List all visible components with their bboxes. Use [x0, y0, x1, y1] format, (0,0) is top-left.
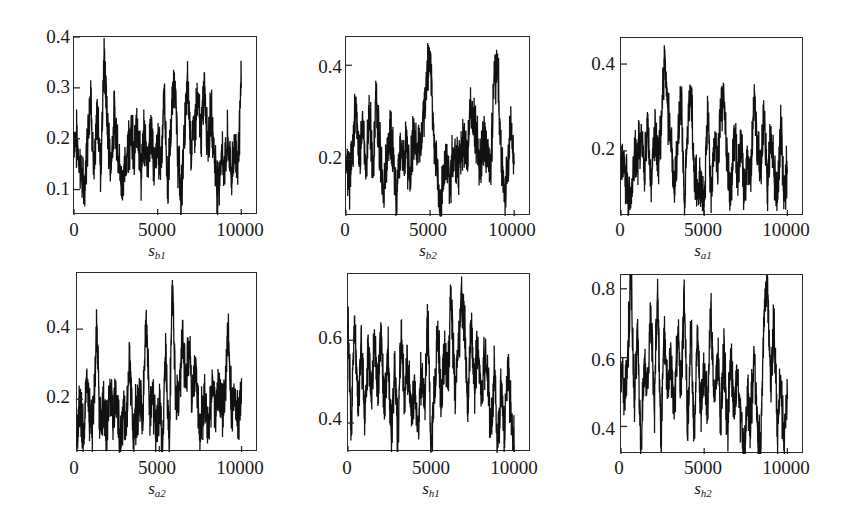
- y-tick-label: 0.4: [298, 409, 342, 428]
- panel-s-h2: 0.8 0.6 0.4 0 5000 10000 sh2: [560, 262, 846, 525]
- x-axis-label: sa2: [117, 480, 197, 502]
- x-tick-label: 0: [580, 220, 660, 239]
- y-tick-label: 0.2: [26, 387, 70, 406]
- plot-frame: [347, 273, 530, 451]
- y-tick-label: 0.4: [26, 317, 70, 336]
- x-tick-label: 10000: [474, 458, 554, 477]
- y-tick-label: 0.4: [571, 419, 615, 438]
- y-tick-label: 0.2: [571, 139, 615, 158]
- x-tick-label: 0: [34, 220, 114, 239]
- x-tick-label: 10000: [746, 458, 826, 477]
- plot-frame: [620, 274, 803, 453]
- plot-frame: [620, 37, 803, 215]
- panel-s-b1: 0.4 0.3 0.2 0.1 0 5000 10000 sb1: [0, 0, 282, 262]
- x-tick-label: 5000: [663, 220, 743, 239]
- panel-s-a1: 0.4 0.2 0 5000 10000 sa1: [560, 0, 846, 262]
- x-tick-label: 0: [305, 220, 385, 239]
- line-series: [621, 275, 804, 454]
- plot-frame: [76, 272, 257, 451]
- x-tick-label: 0: [579, 458, 659, 477]
- x-tick-label: 0: [307, 458, 387, 477]
- panel-s-a2: 0.4 0.2 0 5000 10000 sa2: [0, 262, 282, 525]
- x-tick-label: 5000: [391, 458, 471, 477]
- line-series: [348, 274, 531, 452]
- y-tick-label: 0.4: [571, 54, 615, 73]
- x-tick-label: 0: [34, 458, 114, 477]
- x-axis-label: sb1: [117, 242, 197, 264]
- y-tick-label: 0.3: [26, 77, 70, 96]
- plot-frame: [345, 36, 530, 215]
- x-tick-label: 10000: [200, 220, 280, 239]
- y-tick-label: 0.2: [26, 128, 70, 147]
- y-tick-label: 0.6: [571, 350, 615, 369]
- line-series: [77, 273, 258, 452]
- line-series: [346, 37, 531, 216]
- panel-s-h1: 0.6 0.4 0 5000 10000 sh1: [280, 262, 562, 525]
- x-tick-label: 5000: [663, 458, 743, 477]
- panel-s-b2: 0.4 0.2 0 5000 10000 sb2: [282, 0, 564, 262]
- x-tick-label: 10000: [746, 220, 826, 239]
- x-axis-label: sh1: [391, 480, 471, 502]
- y-tick-label: 0.1: [26, 179, 70, 198]
- x-axis-label: sb2: [388, 242, 468, 264]
- x-axis-label: sa1: [663, 242, 743, 264]
- line-series: [74, 37, 258, 215]
- x-tick-label: 10000: [472, 220, 552, 239]
- x-tick-label: 5000: [388, 220, 468, 239]
- x-tick-label: 10000: [200, 458, 280, 477]
- y-tick-label: 0.6: [298, 328, 342, 347]
- y-tick-label: 0.2: [298, 148, 342, 167]
- y-tick-label: 0.4: [298, 57, 342, 76]
- x-axis-label: sh2: [663, 480, 743, 502]
- x-tick-label: 5000: [117, 220, 197, 239]
- plot-frame: [73, 36, 257, 214]
- x-tick-label: 5000: [117, 458, 197, 477]
- line-series: [621, 38, 804, 216]
- y-tick-label: 0.8: [571, 279, 615, 298]
- y-tick-label: 0.4: [26, 27, 70, 46]
